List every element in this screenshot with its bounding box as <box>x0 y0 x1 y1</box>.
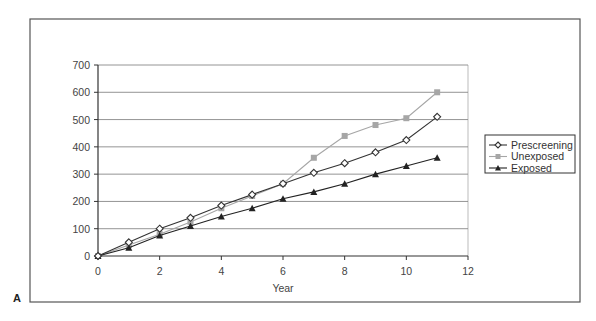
legend-label: Unexposed <box>511 150 564 162</box>
legend: PrescreeningUnexposedExposed <box>485 135 575 174</box>
square-marker-icon <box>342 133 348 139</box>
square-marker-icon <box>403 115 409 121</box>
x-tick-label: 0 <box>95 265 101 277</box>
legend-label: Prescreening <box>511 139 573 151</box>
y-tick-label: 300 <box>72 168 90 180</box>
x-tick-label: 6 <box>280 265 286 277</box>
y-tick-label: 100 <box>72 223 90 235</box>
panel-label: A <box>13 292 21 304</box>
y-tick-label: 200 <box>72 195 90 207</box>
y-tick-label: 0 <box>84 250 90 262</box>
x-tick-label: 10 <box>400 265 412 277</box>
x-tick-label: 2 <box>157 265 163 277</box>
line-chart: 0100200300400500600700 024681012 Year Pr… <box>0 0 596 321</box>
y-tick-label: 500 <box>72 114 90 126</box>
x-axis-title: Year <box>272 282 294 294</box>
x-tick-label: 4 <box>218 265 224 277</box>
square-marker-icon <box>311 155 317 161</box>
square-marker-icon <box>373 122 379 128</box>
x-tick-label: 8 <box>342 265 348 277</box>
square-marker-icon <box>434 89 440 95</box>
y-tick-label: 600 <box>72 86 90 98</box>
y-tick-label: 700 <box>72 59 90 71</box>
y-tick-label: 400 <box>72 141 90 153</box>
legend-label: Exposed <box>511 162 552 174</box>
x-tick-label: 12 <box>462 265 474 277</box>
square-marker-icon <box>496 154 501 159</box>
